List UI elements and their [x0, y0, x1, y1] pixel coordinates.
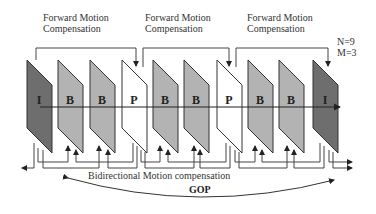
forward-arrows [36, 48, 328, 67]
frame-type-label: B [161, 93, 169, 107]
forward-label-2: Forward MotionCompensation [145, 12, 211, 34]
frame-type-label: P [225, 93, 232, 107]
gop-label: GOP [189, 184, 211, 195]
frame-type-label: P [130, 93, 137, 107]
frame-type-label: I [323, 93, 328, 107]
frame-type-label: B [256, 93, 264, 107]
forward-label-1: Forward MotionCompensation [43, 12, 109, 34]
frame-type-label: I [37, 93, 42, 107]
frame-type-label: B [98, 93, 106, 107]
bidirectional-label: Bidirectional Motion compensation [88, 170, 230, 181]
frame-type-label: B [287, 93, 295, 107]
frame-type-label: B [192, 93, 200, 107]
frame-type-label: B [66, 93, 74, 107]
gop-parameters: N=9M=3 [337, 36, 357, 58]
forward-label-3: Forward MotionCompensation [247, 12, 313, 34]
